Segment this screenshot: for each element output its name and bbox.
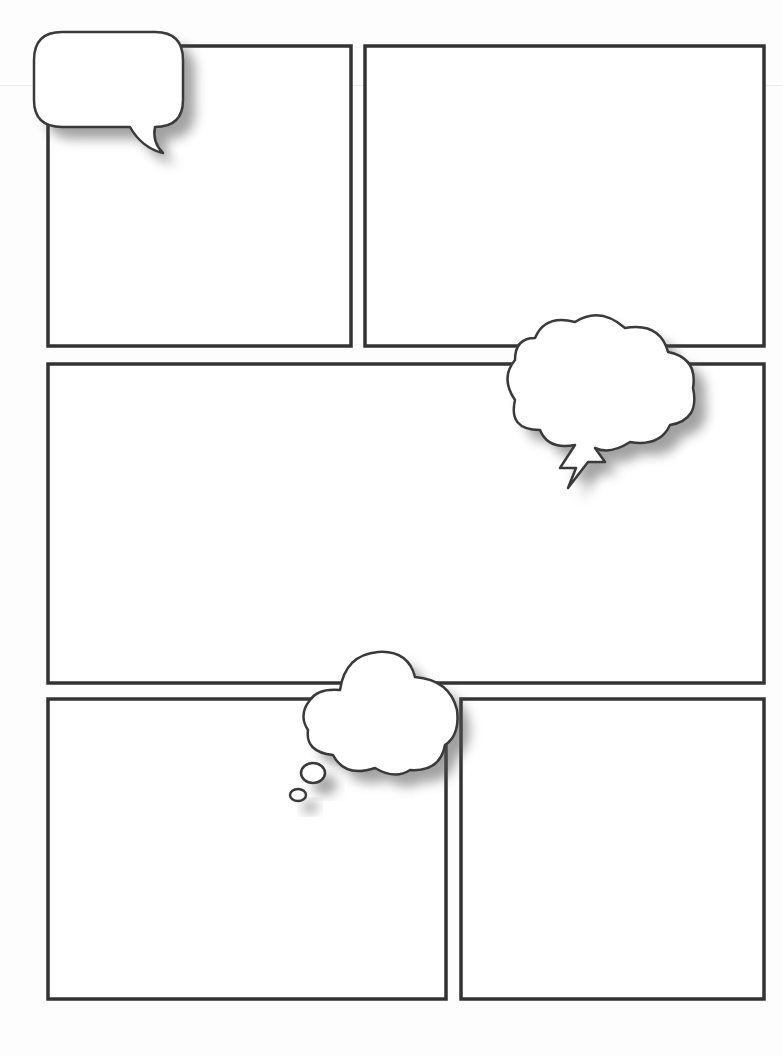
thought-dot-small — [290, 789, 306, 801]
comic-page — [0, 0, 783, 1056]
panels — [48, 46, 764, 999]
panel-5[interactable] — [461, 699, 764, 999]
comic-layout — [0, 0, 783, 1056]
panel-2[interactable] — [365, 46, 764, 346]
thought-dot-large — [301, 763, 325, 783]
